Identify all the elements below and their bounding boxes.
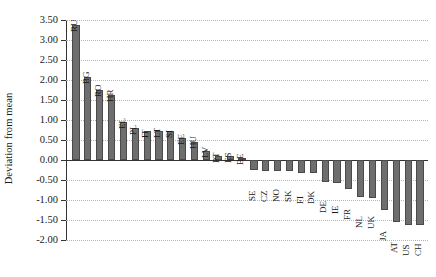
y-tick-label: 0.50: [18, 135, 58, 146]
bar-label-se: SE: [248, 190, 257, 201]
y-tick-mark: [61, 160, 66, 161]
gridline: [66, 100, 428, 101]
y-tick-label: 3.50: [18, 15, 58, 26]
bar-bg: [84, 77, 91, 160]
y-tick-label: -1.00: [18, 195, 58, 206]
bar-label-ch: CH: [414, 243, 423, 256]
gridline: [66, 60, 428, 61]
bar-uk: [369, 160, 376, 198]
bar-fi: [298, 160, 305, 173]
bar-label-el: EL: [118, 118, 127, 129]
bar-fr: [345, 160, 352, 189]
bar-label-sk: SK: [284, 191, 293, 203]
bar-label-hu: HU: [189, 136, 198, 149]
bar-label-ru: RU: [70, 19, 79, 32]
bar-label-nl: NL: [355, 216, 364, 228]
bar-label-lt: LT: [153, 128, 162, 138]
bar-ch: [416, 160, 423, 225]
bar-label-fi: FI: [296, 196, 305, 204]
bar-label-dk: DK: [307, 191, 316, 204]
bar-label-be: BE: [236, 153, 245, 165]
y-tick-mark: [61, 40, 66, 41]
y-tick-label: 3.00: [18, 35, 58, 46]
y-tick-label: 1.50: [18, 95, 58, 106]
bar-label-uk: UK: [367, 216, 376, 229]
bar-label-lv: LV: [201, 147, 210, 158]
bar-ie: [333, 160, 340, 183]
bar-chart: Deviation from mean 3.503.002.502.001.50…: [0, 0, 436, 277]
y-tick-mark: [61, 100, 66, 101]
bar-label-hr: HR: [106, 90, 115, 103]
bar-label-us: US: [402, 244, 411, 256]
bar-label-at: AT: [390, 242, 399, 253]
y-tick-mark: [61, 120, 66, 121]
bar-us: [405, 160, 412, 225]
bar-ja: [381, 160, 388, 210]
y-tick-label: -2.00: [18, 235, 58, 246]
bar-label-de: DE: [319, 201, 328, 213]
bar-label-ee: EE: [177, 134, 186, 145]
y-tick-label: 1.00: [18, 115, 58, 126]
bar-label-es: ES: [224, 152, 233, 163]
bar-se: [250, 160, 257, 170]
bar-cz: [262, 160, 269, 171]
y-tick-mark: [61, 220, 66, 221]
y-tick-mark: [61, 80, 66, 81]
gridline: [66, 80, 428, 81]
bar-label-it: IT: [141, 130, 150, 139]
y-tick-mark: [61, 20, 66, 21]
gridline: [66, 40, 428, 41]
gridline: [66, 240, 428, 241]
bar-label-fr: FR: [343, 209, 352, 220]
bar-label-pl: PL: [129, 124, 138, 135]
bar-label-ro: RO: [94, 84, 103, 97]
y-tick-label: 0.00: [18, 155, 58, 166]
y-tick-mark: [61, 180, 66, 181]
bar-de: [322, 160, 329, 182]
y-tick-mark: [61, 200, 66, 201]
bar-label-ja: JA: [379, 231, 388, 241]
y-tick-label: -1.50: [18, 215, 58, 226]
bar-label-bg: BG: [82, 71, 91, 84]
y-tick-label: 2.50: [18, 55, 58, 66]
bar-label-ie: IE: [331, 206, 340, 215]
bar-label-pt: PT: [212, 152, 221, 163]
y-tick-mark: [61, 240, 66, 241]
y-tick-label: 2.00: [18, 75, 58, 86]
bar-label-si: SI: [165, 130, 174, 138]
gridline: [66, 20, 428, 21]
y-tick-mark: [61, 140, 66, 141]
y-axis-line: [66, 20, 67, 240]
bar-ru: [72, 25, 79, 160]
bar-sk: [286, 160, 293, 171]
bar-hr: [108, 95, 115, 160]
y-tick-label: -0.50: [18, 175, 58, 186]
bar-label-cz: CZ: [260, 190, 269, 202]
plot-area: 3.503.002.502.001.501.000.500.00-0.50-1.…: [66, 20, 428, 240]
bar-at: [393, 160, 400, 222]
y-axis-title: Deviation from mean: [0, 0, 18, 277]
y-tick-mark: [61, 60, 66, 61]
bar-dk: [310, 160, 317, 173]
bar-label-no: NO: [272, 189, 281, 202]
bar-nl: [357, 160, 364, 197]
bar-ro: [96, 90, 103, 160]
bar-no: [274, 160, 281, 171]
